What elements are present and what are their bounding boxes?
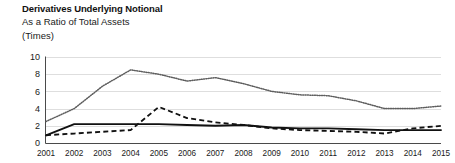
- x-tick-label: 2009: [263, 149, 282, 158]
- x-tick-label: 2001: [37, 149, 56, 158]
- y-tick-label: 0: [35, 138, 40, 148]
- x-tick-label: 2006: [178, 149, 197, 158]
- x-tick-label: 2014: [404, 149, 423, 158]
- x-tick-label: 2012: [347, 149, 366, 158]
- y-tick-label: 4: [35, 104, 40, 114]
- chart-figure: Derivatives Underlying Notional As a Rat…: [0, 0, 455, 163]
- x-tick-label: 2003: [93, 149, 112, 158]
- x-tick-label: 2010: [291, 149, 310, 158]
- x-tick-label: 2011: [319, 149, 337, 158]
- series-line-dashed: [46, 107, 441, 135]
- y-tick-label: 8: [35, 69, 40, 79]
- x-tick-label: 2004: [122, 149, 141, 158]
- chart-plot-area: 0246810 20012002200320042005200620072008…: [0, 0, 455, 163]
- y-tick-label: 6: [35, 87, 40, 97]
- x-tick-label: 2015: [432, 149, 451, 158]
- x-tick-label: 2008: [234, 149, 253, 158]
- series-line-dotted: [46, 70, 441, 122]
- x-tick-label: 2013: [375, 149, 394, 158]
- x-tick-label: 2005: [150, 149, 169, 158]
- y-tick-label: 10: [30, 52, 40, 62]
- y-axis-tick-labels: 0246810: [30, 52, 40, 148]
- data-series-group: [46, 70, 441, 135]
- gridlines-group: [46, 58, 441, 127]
- x-tick-label: 2002: [65, 149, 84, 158]
- x-axis-tick-labels: 2001200220032004200520062007200820092010…: [37, 149, 451, 158]
- y-tick-label: 2: [35, 121, 40, 131]
- x-tick-label: 2007: [206, 149, 225, 158]
